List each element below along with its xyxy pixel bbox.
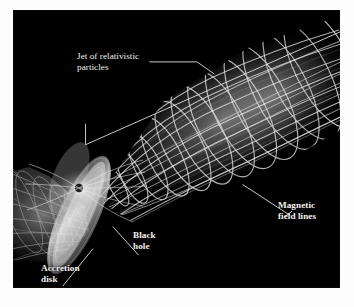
label-accretion-disk: Accretion disk xyxy=(41,263,80,284)
astronomy-figure-panel: Jet of relativistic particles Magnetic f… xyxy=(13,10,340,288)
label-black-hole: Black hole xyxy=(133,230,156,251)
label-magnetic-field-lines: Magnetic field lines xyxy=(278,200,316,221)
label-jet-of-relativistic-particles: Jet of relativistic particles xyxy=(77,51,139,72)
black-hole-jet-illustration xyxy=(13,10,340,288)
figure-page: Jet of relativistic particles Magnetic f… xyxy=(0,0,354,307)
black-hole-core xyxy=(54,170,106,210)
